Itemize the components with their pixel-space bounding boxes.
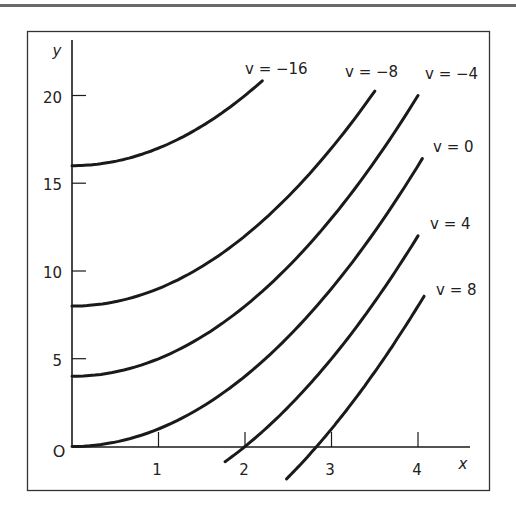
y-tick-label-20: 20 <box>43 89 62 107</box>
curve-label-v-0: v = 0 <box>433 138 474 156</box>
curve-v-minus-8 <box>72 91 375 306</box>
curve-label-v-4: v = 4 <box>430 215 471 233</box>
x-axis-label: x <box>458 455 468 473</box>
chart: 5 10 15 20 1 2 3 4 O x y v = −16 v = −8 … <box>0 0 516 510</box>
curve-v-minus-16 <box>72 81 262 166</box>
y-axis-label: y <box>52 42 63 60</box>
origin-label: O <box>53 442 66 461</box>
curve-label-v-minus-8: v = −8 <box>345 63 398 81</box>
x-tick-label-2: 2 <box>239 461 249 479</box>
y-tick-label-15: 15 <box>43 176 62 194</box>
y-ticks <box>72 96 86 359</box>
curve-label-v-minus-4: v = −4 <box>425 65 478 83</box>
curve-label-text: v = −16 <box>245 60 308 78</box>
x-tick-label-3: 3 <box>325 461 335 479</box>
x-tick-label-4: 4 <box>412 461 422 479</box>
x-tick-label-1: 1 <box>152 461 162 479</box>
x-ticks <box>159 432 419 447</box>
curves <box>72 81 424 479</box>
y-tick-label-5: 5 <box>52 352 62 370</box>
curve-label-v-8: v = 8 <box>436 281 477 299</box>
chart-frame <box>28 32 490 491</box>
curve-label-v-minus-16: v = −16 <box>245 60 308 78</box>
y-tick-label-10: 10 <box>43 264 62 282</box>
